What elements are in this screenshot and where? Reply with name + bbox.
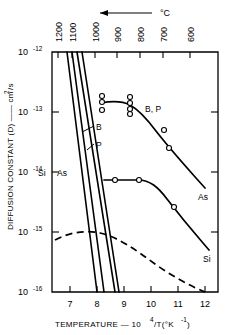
series-markers-As bbox=[113, 178, 177, 210]
data-point bbox=[172, 205, 177, 210]
data-point bbox=[100, 100, 105, 105]
data-point bbox=[128, 107, 133, 112]
top-tick-label-600: 600 bbox=[186, 27, 196, 42]
y-tick-mantissa: 10 bbox=[18, 47, 28, 57]
y-axis-title-unit-end: /s bbox=[6, 83, 15, 90]
y-axis-title-text: DIFFUSION CONSTANT (D) —— cm bbox=[6, 91, 15, 230]
series-label-B-steep: B bbox=[96, 122, 102, 132]
data-point bbox=[128, 95, 133, 100]
data-point bbox=[100, 108, 105, 113]
data-point bbox=[162, 128, 167, 133]
chart-svg: °C 1200 1100 1000 900 800 700 600 bbox=[0, 0, 243, 335]
top-tick-label-800: 800 bbox=[136, 27, 146, 42]
data-point bbox=[167, 146, 172, 151]
top-tick-label-700: 700 bbox=[159, 27, 169, 42]
y-tick-mantissa: 10 bbox=[18, 167, 28, 177]
x-tick-label-9: 9 bbox=[121, 299, 126, 309]
y-axis-ticks-right bbox=[211, 112, 218, 232]
diffusion-constant-chart: °C 1200 1100 1000 900 800 700 600 bbox=[0, 0, 243, 335]
data-point bbox=[128, 112, 133, 117]
x-axis-title-end: ) bbox=[187, 320, 190, 329]
series-label-B-P: B, P bbox=[145, 104, 161, 114]
x-tick-label-10: 10 bbox=[146, 299, 156, 309]
x-tick-label-12: 12 bbox=[200, 299, 210, 309]
y-tick-exponent: -13 bbox=[33, 105, 43, 112]
top-tick-label-1100: 1100 bbox=[68, 23, 78, 42]
series-label-P-steep: P bbox=[96, 140, 102, 150]
top-tick-label-1000: 1000 bbox=[91, 22, 101, 42]
data-point bbox=[100, 94, 105, 99]
bottom-axis-ticks bbox=[70, 286, 205, 292]
series-label-Si-steep: Si bbox=[38, 168, 46, 178]
y-tick-mantissa: 10 bbox=[18, 287, 28, 297]
y-tick-exponent: -15 bbox=[33, 225, 43, 232]
leader-line-B bbox=[82, 126, 94, 132]
y-tick-label-1e-15: 10 -15 bbox=[18, 225, 43, 237]
x-axis-title-text: TEMPERATURE — 10 bbox=[55, 320, 141, 329]
data-point bbox=[128, 101, 133, 106]
x-axis-title-rest: /T(°K bbox=[154, 320, 174, 329]
series-label-As: As bbox=[198, 192, 208, 202]
top-axis-unit-label: °C bbox=[160, 8, 171, 18]
data-point bbox=[113, 178, 118, 183]
top-tick-label-1200: 1200 bbox=[54, 22, 64, 42]
series-label-As-steep: As bbox=[57, 168, 67, 178]
x-tick-label-8: 8 bbox=[94, 299, 99, 309]
data-point bbox=[137, 178, 142, 183]
series-curve-As bbox=[104, 180, 209, 250]
x-tick-label-11: 11 bbox=[173, 299, 182, 309]
x-axis-title: TEMPERATURE — 10 4 /T(°K -1 ) bbox=[55, 316, 190, 329]
y-tick-label-1e-16: 10 -16 bbox=[18, 285, 43, 297]
top-tick-label-900: 900 bbox=[113, 27, 123, 42]
y-tick-exponent: -16 bbox=[33, 285, 43, 292]
series-curve-B-P bbox=[101, 102, 205, 188]
top-axis-direction-arrow bbox=[100, 10, 152, 16]
y-axis-title: DIFFUSION CONSTANT (D) —— cm 2 /s bbox=[3, 83, 15, 230]
top-tick-labels: 1200 1100 1000 900 800 700 600 bbox=[54, 22, 196, 42]
y-tick-label-1e-13: 10 -13 bbox=[18, 105, 43, 117]
x-tick-labels: 7 8 9 10 11 12 bbox=[67, 299, 210, 309]
y-tick-exponent: -12 bbox=[33, 45, 43, 52]
y-tick-mantissa: 10 bbox=[18, 227, 28, 237]
y-tick-mantissa: 10 bbox=[18, 107, 28, 117]
series-label-Si: Si bbox=[203, 254, 211, 264]
y-tick-label-1e-12: 10 -12 bbox=[18, 45, 43, 57]
x-tick-label-7: 7 bbox=[67, 299, 72, 309]
series-curve-Si bbox=[55, 232, 205, 292]
